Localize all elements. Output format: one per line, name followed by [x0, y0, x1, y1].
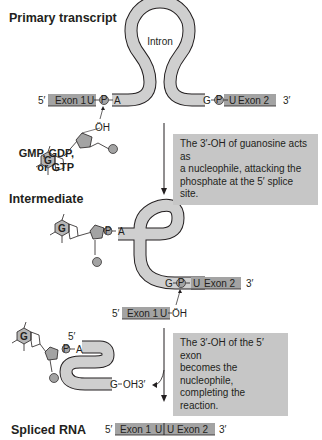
svg-text:P: P: [63, 343, 70, 354]
svg-text:Exon 1: Exon 1: [120, 424, 152, 435]
intron-label: Intron: [147, 36, 173, 47]
svg-text:P: P: [216, 94, 223, 105]
svg-text:Exon 2: Exon 2: [177, 424, 209, 435]
stage-heading-primary: Primary transcript: [9, 11, 117, 25]
svg-text:ÖH: ÖH: [95, 122, 110, 133]
svg-text:Exon 1: Exon 1: [55, 95, 87, 106]
guanosine-source-line-1: GMP, GDP,: [10, 146, 74, 160]
svg-text:A: A: [114, 95, 121, 106]
svg-text:5′: 5′: [68, 331, 76, 342]
svg-text:OH3′: OH3′: [123, 379, 146, 390]
svg-text:U: U: [229, 95, 236, 106]
svg-text:5′: 5′: [112, 308, 120, 319]
svg-text:5′: 5′: [105, 424, 113, 435]
svg-text:U: U: [160, 308, 167, 319]
svg-text:A: A: [118, 226, 125, 237]
svg-text:Exon 2: Exon 2: [204, 278, 236, 289]
svg-text:3′: 3′: [283, 95, 291, 106]
svg-text:U: U: [87, 95, 94, 106]
step2-note-line-2: becomes the nucleophile,: [180, 362, 281, 387]
svg-text:G: G: [165, 278, 173, 289]
svg-text:Exon 2: Exon 2: [238, 95, 270, 106]
svg-text:P: P: [178, 277, 185, 288]
svg-text:5′: 5′: [38, 95, 46, 106]
svg-text:Exon 1: Exon 1: [127, 308, 159, 319]
svg-text:P: P: [101, 94, 108, 105]
svg-text:A: A: [76, 344, 83, 355]
svg-text:U: U: [167, 424, 174, 435]
step2-note-line-1: The 3′-OH of the 5′ exon: [180, 337, 281, 362]
intermediate: P A G P U Exon 2 3′ 5′ Exon 1 U ÖH: [50, 205, 254, 319]
guanosine-source-line-2: or GTP: [10, 160, 74, 174]
step2-note: The 3′-OH of the 5′ exon becomes the nuc…: [173, 333, 288, 416]
svg-text:3′: 3′: [219, 424, 227, 435]
svg-text:3′: 3′: [246, 278, 254, 289]
stage-heading-spliced: Spliced RNA: [11, 423, 86, 437]
step1-note-line-3: phosphate at the 5′ splice site.: [180, 176, 311, 201]
svg-text:G: G: [203, 95, 211, 106]
step1-note: The 3′-OH of guanosine acts as a nucleop…: [173, 134, 318, 205]
spliced-rna: 5′ Exon 1 U U Exon 2 3′: [105, 423, 227, 435]
svg-text:ÖH: ÖH: [172, 308, 187, 319]
lariat-product: G OH3′ P A 5′: [12, 322, 146, 390]
svg-text:U: U: [193, 278, 200, 289]
step2-note-line-3: completing the reaction.: [180, 387, 281, 412]
svg-text:P: P: [105, 225, 112, 236]
step1-note-line-2: a nucleophile, attacking the: [180, 163, 311, 176]
svg-text:G: G: [110, 379, 118, 390]
stage-heading-intermediate: Intermediate: [9, 192, 83, 206]
guanosine-source-label: GMP, GDP, or GTP: [10, 146, 74, 174]
step1-note-line-1: The 3′-OH of guanosine acts as: [180, 138, 311, 163]
svg-text:U: U: [155, 424, 162, 435]
